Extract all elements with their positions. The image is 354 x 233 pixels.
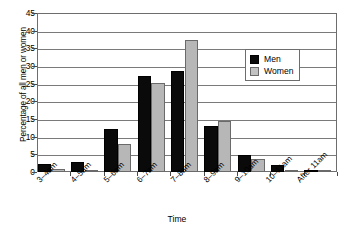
legend-item-women: Women — [250, 65, 293, 77]
bar-women — [318, 170, 331, 172]
bar-women — [285, 170, 298, 172]
bar-series-container — [37, 13, 337, 172]
y-axis-tick-label: 45 — [5, 9, 35, 17]
x-axis-tick-mark — [337, 172, 338, 176]
y-axis-tick-label: 10 — [5, 133, 35, 141]
y-axis-tick-label: 20 — [5, 97, 35, 105]
y-axis-tick-label: 0 — [5, 168, 35, 176]
x-axis-title: Time — [0, 214, 354, 224]
y-axis-tick-label: 35 — [5, 44, 35, 52]
bar-chart: Percentage of all men or women 051015202… — [0, 0, 354, 233]
legend-swatch-men-icon — [250, 55, 259, 64]
y-axis-tick-label: 15 — [5, 115, 35, 123]
legend-label-women: Women — [264, 67, 293, 76]
bar-women — [151, 83, 164, 172]
chart-legend: Men Women — [245, 49, 300, 81]
y-axis-tick-mark — [32, 172, 37, 173]
y-axis-tick-label: 30 — [5, 62, 35, 70]
y-axis-tick-label: 5 — [5, 150, 35, 158]
legend-item-men: Men — [250, 53, 293, 65]
bar-men — [138, 76, 151, 172]
y-axis-tick-label: 40 — [5, 27, 35, 35]
legend-swatch-women-icon — [250, 67, 259, 76]
legend-label-men: Men — [264, 55, 281, 64]
y-axis-tick-label: 25 — [5, 80, 35, 88]
bar-men — [171, 71, 184, 172]
bar-women — [185, 40, 198, 172]
